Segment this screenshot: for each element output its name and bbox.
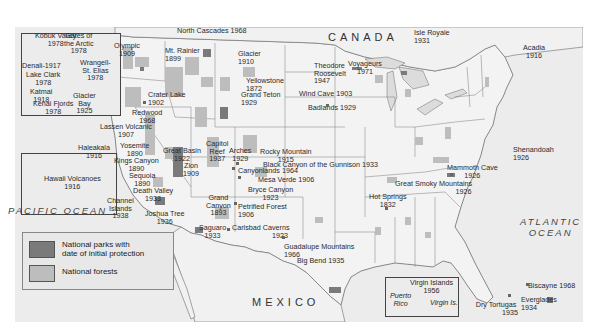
park-label: Great Basin1922 <box>163 147 201 162</box>
park-label: Everglades1934 <box>521 296 557 311</box>
national-forest-swatch-icon <box>29 265 55 282</box>
park-label: GlacierBay1925 <box>73 92 96 115</box>
park-label: Isle Royale1931 <box>414 29 450 44</box>
park-label: Carlsbad Caverns1923 <box>232 224 290 239</box>
place-label-puerto-rico: PuertoRico <box>390 292 411 307</box>
park-marker-icon <box>326 104 329 107</box>
park-label: Acadia1916 <box>523 44 545 59</box>
legend-label: National forests <box>62 265 118 277</box>
legend-label-line2: date of initial protection <box>62 250 144 259</box>
park-marker-icon <box>450 173 453 176</box>
park-label: Dry Tortugas1935 <box>474 301 518 316</box>
place-label-virgin-islands: Virgin Is. <box>430 299 458 307</box>
park-marker-icon <box>232 167 235 170</box>
park-label: Bryce Canyon1923 <box>248 186 293 201</box>
park-label: Yosemite1890 <box>120 142 149 157</box>
park-marker-icon <box>143 101 146 104</box>
park-label: Hot Springs1832 <box>369 193 407 208</box>
map-legend: National parks with date of initial prot… <box>22 232 174 290</box>
park-label: Wrangell-St. Elias1978 <box>80 59 111 82</box>
park-label: Glacier1910 <box>238 50 261 65</box>
park-marker-icon <box>282 236 285 239</box>
park-label: Denali-1917 <box>22 62 61 70</box>
legend-item-national-parks: National parks with date of initial prot… <box>29 241 144 258</box>
park-label: GrandCanyon1893 <box>206 194 231 217</box>
park-label: Biscayne 1968 <box>528 282 575 290</box>
park-label: Mesa Verde 1906 <box>258 176 314 184</box>
legend-item-national-forests: National forests <box>29 265 118 282</box>
park-label: Virgin Islands1956 <box>410 279 453 294</box>
region-label-canada: CANADA <box>328 31 398 43</box>
region-label-pacific-ocean: PACIFIC OCEAN <box>8 205 107 216</box>
national-park-swatch-icon <box>29 241 55 258</box>
park-label: Mammoth Cave1926 <box>447 164 498 179</box>
region-label-mexico: MEXICO <box>252 296 319 308</box>
park-marker-icon <box>236 162 239 165</box>
park-marker-icon <box>508 294 511 297</box>
park-label: North Cascades 1968 <box>177 27 247 35</box>
park-label: Kenai Fjords1978 <box>33 100 73 115</box>
park-label: Lassen Volcanic1907 <box>100 123 152 138</box>
park-label: Kings Canyon1890 <box>114 157 159 172</box>
park-label: Joshua Tree1936 <box>145 210 185 225</box>
park-marker-icon <box>385 207 388 210</box>
park-label: Haleakala1916 <box>78 144 110 159</box>
park-marker-icon <box>234 202 237 205</box>
park-label: CapitolReef1937 <box>206 140 228 163</box>
park-label: Hawaii Volcanoes1916 <box>44 175 101 190</box>
park-label: Lake Clark1978 <box>26 71 60 86</box>
park-label: Petrified Forest1906 <box>238 203 287 218</box>
park-label: Gates ofthe Arctic1978 <box>64 32 94 55</box>
park-label: Death Valley1933 <box>133 187 173 202</box>
park-label: Sequoia1890 <box>129 172 155 187</box>
park-label: Saguaro1933 <box>199 224 226 239</box>
park-label: Big Bend 1935 <box>297 257 344 265</box>
region-label-atlantic-ocean: ATLANTIC OCEAN <box>520 216 581 238</box>
park-label: Badlands 1929 <box>308 104 356 112</box>
park-label: TheodoreRoosevelt1947 <box>314 62 346 85</box>
park-marker-icon <box>526 283 529 286</box>
park-marker-icon <box>238 176 241 179</box>
park-label: Crater Lake1902 <box>148 91 186 106</box>
park-label: Black Canyon of the Gunnison 1933 <box>263 161 378 169</box>
park-label: Wind Cave 1903 <box>299 90 352 98</box>
park-marker-icon <box>227 228 230 231</box>
park-label: Zion1909 <box>183 162 199 177</box>
park-label: Arches1929 <box>229 147 251 162</box>
park-label: Grand Teton1929 <box>241 91 280 106</box>
park-label: ChannelIslands1938 <box>107 197 134 220</box>
park-label: Shenandoah1926 <box>513 146 554 161</box>
park-label: Voyageurs1971 <box>348 60 382 75</box>
park-label: Olympic1909 <box>114 42 140 57</box>
park-label: Mt. Rainier1899 <box>165 47 200 62</box>
